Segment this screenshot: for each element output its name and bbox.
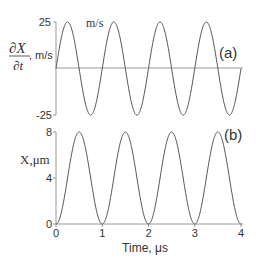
panel-b-ylabel: X,μm: [20, 152, 50, 167]
panel-a-ytick-label: 25: [39, 16, 51, 28]
panel-a-ytick-label: -25: [36, 109, 52, 121]
x-tick-label: 4: [238, 227, 244, 239]
panel-b-ytick-label: 4: [46, 172, 52, 184]
panel-a-annotation: m/s: [86, 16, 104, 30]
x-tick-label: 2: [145, 227, 151, 239]
panel-b-displacement-line: [56, 132, 241, 224]
x-tick-label: 3: [192, 227, 198, 239]
chart: 25 -25 m/s (a) ∂X ∂t , m/s 840 01234 (b)…: [0, 0, 259, 266]
panel-b-ytick-label: 8: [46, 126, 52, 138]
panel-b-label: (b): [224, 126, 242, 143]
panel-a-ylabel-denominator: ∂t: [13, 58, 23, 73]
panel-a-label: (a): [219, 44, 237, 61]
x-tick-label: 1: [99, 227, 105, 239]
panel-b-ytick-label: 0: [46, 218, 52, 230]
panel-b: 840 01234 (b) X,μm Time, μs: [20, 126, 244, 255]
panel-a: 25 -25 m/s (a) ∂X ∂t , m/s: [9, 16, 243, 121]
panel-a-ylabel-unit: , m/s: [29, 49, 53, 61]
panel-a-ylabel-numerator: ∂X: [9, 40, 26, 56]
x-axis-label: Time, μs: [122, 241, 168, 255]
x-tick-label: 0: [53, 227, 59, 239]
